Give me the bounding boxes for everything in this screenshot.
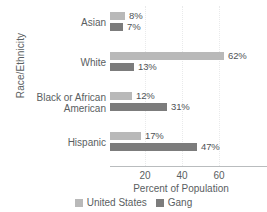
category-label-asian: Asian — [0, 17, 106, 28]
category-label-black-or-african-american: Black or African American — [0, 92, 106, 114]
bar-us-asian[interactable] — [110, 12, 125, 20]
bar-label-us-black-or-african-american: 12% — [136, 90, 155, 101]
bar-group-hispanic: 17% 47% — [110, 132, 267, 153]
bar-row-us: 17% — [110, 132, 267, 140]
bar-row-us: 62% — [110, 52, 267, 60]
x-tick-20: 20 — [130, 170, 160, 181]
legend: United States Gang — [0, 197, 267, 208]
bar-label-gang-hispanic: 47% — [201, 141, 220, 152]
bar-us-black-or-african-american[interactable] — [110, 92, 132, 100]
bar-row-gang: 13% — [110, 63, 267, 71]
bar-us-hispanic[interactable] — [110, 132, 141, 140]
bar-label-gang-black-or-african-american: 31% — [171, 101, 190, 112]
legend-swatch-icon-united-states — [75, 199, 83, 207]
bar-label-gang-asian: 7% — [127, 21, 141, 32]
legend-label-gang: Gang — [168, 197, 192, 208]
legend-item-gang[interactable]: Gang — [156, 197, 192, 208]
bar-gang-white[interactable] — [110, 63, 134, 71]
bar-row-us: 12% — [110, 92, 267, 100]
bar-group-white: 62% 13% — [110, 52, 267, 73]
bar-row-gang: 47% — [110, 143, 267, 151]
x-axis-title: Percent of Population — [95, 183, 267, 194]
bar-gang-asian[interactable] — [110, 23, 123, 31]
bar-row-gang: 31% — [110, 103, 267, 111]
legend-label-united-states: United States — [87, 197, 147, 208]
x-tick-60: 60 — [204, 170, 234, 181]
bar-group-black-or-african-american: 12% 31% — [110, 92, 267, 113]
legend-swatch-icon-gang — [156, 199, 164, 207]
bar-label-us-hispanic: 17% — [145, 130, 164, 141]
bar-group-asian: 8% 7% — [110, 12, 267, 33]
category-label-hispanic: Hispanic — [0, 137, 106, 148]
bar-us-white[interactable] — [110, 52, 224, 60]
bar-label-us-asian: 8% — [129, 10, 143, 21]
legend-item-united-states[interactable]: United States — [75, 197, 147, 208]
bar-label-us-white: 62% — [228, 50, 247, 61]
bar-label-gang-white: 13% — [138, 61, 157, 72]
bar-chart: Race/Ethnicity 8% 7% 62% 13% — [0, 0, 267, 212]
bar-row-gang: 7% — [110, 23, 267, 31]
x-axis-line — [110, 166, 267, 167]
x-tick-40: 40 — [167, 170, 197, 181]
plot-area: 8% 7% 62% 13% 12% — [110, 6, 267, 166]
category-label-white: White — [0, 57, 106, 68]
bar-row-us: 8% — [110, 12, 267, 20]
bar-gang-hispanic[interactable] — [110, 143, 197, 151]
bar-gang-black-or-african-american[interactable] — [110, 103, 167, 111]
